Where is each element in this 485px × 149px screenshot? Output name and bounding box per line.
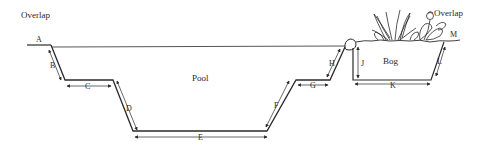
- label-F: F: [274, 101, 279, 110]
- label-M: M: [450, 30, 457, 39]
- label-L: L: [437, 57, 442, 66]
- label-E: E: [198, 133, 203, 142]
- label-A: A: [36, 35, 42, 44]
- label-J: J: [361, 59, 364, 68]
- overlap-right-label: Overlap: [434, 8, 463, 18]
- pool-bog-diagram: Overlap Overlap Pool Bog A B C D E F G H…: [0, 0, 485, 149]
- label-D: D: [126, 104, 132, 113]
- label-G: G: [310, 81, 316, 90]
- label-B: B: [50, 61, 55, 70]
- rock: [345, 39, 356, 50]
- pool-label: Pool: [192, 73, 209, 83]
- label-K: K: [390, 81, 396, 90]
- bog-label: Bog: [383, 56, 399, 66]
- overlap-left-label: Overlap: [21, 10, 50, 20]
- pool-outline: [27, 45, 345, 131]
- labels: Overlap Overlap Pool Bog A B C D E F G H…: [21, 8, 463, 142]
- label-H: H: [329, 59, 335, 68]
- label-C: C: [85, 82, 90, 91]
